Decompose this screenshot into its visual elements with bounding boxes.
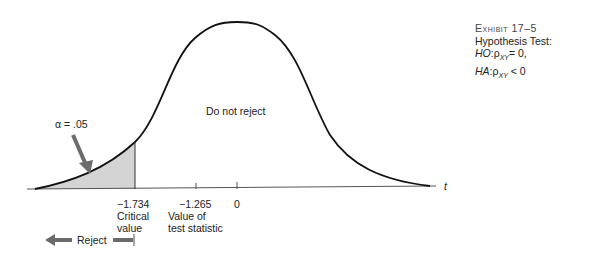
critical-value-label: −1.734 Critical value [117,198,149,234]
do-not-reject-label: Do not reject [206,105,266,117]
null-hypothesis: HO:ρXY= 0, [475,47,552,65]
alt-hypothesis: HA:ρXY < 0 [475,65,552,83]
reject-arrow-left-icon [45,234,55,246]
exhibit-line1: Hypothesis Test: [475,35,552,48]
test-statistic-label: −1.265 Value of test statistic [168,198,223,234]
alpha-label: α = .05 [55,118,88,130]
reject-label: Reject [77,234,107,246]
alpha-arrow-icon [73,135,86,165]
exhibit-caption: Exhibit 17–5 Hypothesis Test: HO:ρXY= 0,… [475,22,552,82]
zero-label: 0 [234,198,240,210]
exhibit-title: Exhibit 17–5 [475,22,552,35]
t-axis-label: t [444,180,447,192]
